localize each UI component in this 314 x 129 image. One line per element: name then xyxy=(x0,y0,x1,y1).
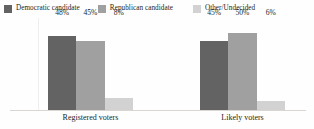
legend-item-republican-candidate: Republican candidate xyxy=(98,0,173,18)
category-label-likely-voters: Likely voters xyxy=(200,113,285,123)
bar-registered-other xyxy=(105,98,133,110)
bar-registered-democratic xyxy=(48,36,76,110)
bar-value-likely-other: 6% xyxy=(266,9,276,17)
bar-groups: 48% 45% 8% 45% xyxy=(0,18,314,111)
bar-value-registered-other: 8% xyxy=(114,9,124,17)
bar-chart-figure: Democratic candidate Republican candidat… xyxy=(0,0,314,129)
bar-likely-republican xyxy=(228,33,256,110)
bar-slot-likely-democratic: 45% xyxy=(200,18,228,110)
legend-swatch-icon-other xyxy=(193,5,201,13)
legend-swatch-icon-democratic xyxy=(4,5,12,13)
bar-group-registered-voters: 48% 45% 8% xyxy=(48,18,133,110)
bar-value-likely-democratic: 45% xyxy=(207,9,221,17)
bar-likely-other xyxy=(257,101,285,110)
category-axis-labels: Registered voters Likely voters xyxy=(0,113,314,129)
category-label-registered-voters: Registered voters xyxy=(48,113,133,123)
bar-value-registered-democratic: 48% xyxy=(55,9,69,17)
bar-likely-democratic xyxy=(200,41,228,110)
plot-area: 48% 45% 8% 45% xyxy=(0,18,314,111)
bar-value-likely-republican: 50% xyxy=(235,9,249,17)
legend-swatch-icon-republican xyxy=(98,5,106,13)
bar-registered-republican xyxy=(76,41,104,110)
bar-slot-registered-democratic: 48% xyxy=(48,18,76,110)
legend-label-democratic: Democratic candidate xyxy=(16,5,80,12)
bar-value-registered-republican: 45% xyxy=(83,9,97,17)
bar-slot-registered-republican: 45% xyxy=(76,18,104,110)
bar-slot-registered-other: 8% xyxy=(105,18,133,110)
bar-slot-likely-other: 6% xyxy=(257,18,285,110)
bar-slot-likely-republican: 50% xyxy=(228,18,256,110)
bar-group-likely-voters: 45% 50% 6% xyxy=(200,18,285,110)
